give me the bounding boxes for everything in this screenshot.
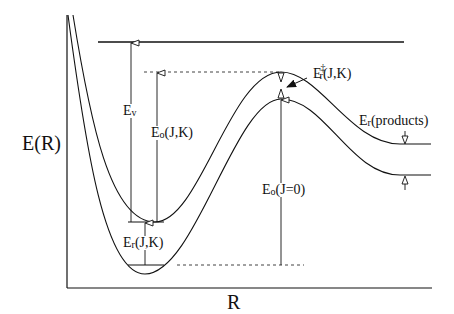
products-arrow-down-icon [402, 136, 408, 144]
ev-label: Ev [123, 104, 137, 118]
x-axis-label: R [227, 292, 240, 312]
axes [67, 15, 432, 288]
eo-j0-label: Eo(J=0) [262, 183, 305, 197]
barrier-arrow-down-icon [278, 73, 284, 82]
barrier-arrow-up-icon [278, 89, 284, 98]
potential-energy-diagram [0, 0, 454, 314]
er-products-label: Er(products) [359, 114, 428, 128]
er-transition-state-label: E‡r(J,K) [313, 67, 351, 81]
products-arrow-up-icon [402, 176, 408, 184]
er-jk-label: Er(J,K) [123, 236, 163, 250]
ts-pointer-arrow [287, 78, 307, 87]
y-axis-label: E(R) [22, 133, 61, 153]
eo-jk-label: Eo(J,K) [151, 126, 193, 140]
